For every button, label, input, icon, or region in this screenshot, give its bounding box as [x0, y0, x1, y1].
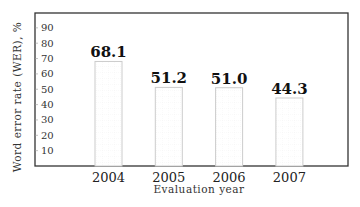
x-tick-label: 2007 [273, 170, 306, 185]
bar-2006 [216, 88, 243, 166]
y-tick-label: 10 [41, 145, 54, 156]
y-tick-label: 40 [41, 99, 54, 110]
bar-2005 [155, 87, 182, 166]
y-tick-label: 30 [41, 114, 54, 125]
bar-2007 [276, 98, 303, 166]
chart: 102030405060708090 68.151.251.044.3 2004… [0, 0, 360, 207]
y-tick-label: 80 [41, 38, 54, 49]
y-tick-label: 90 [41, 22, 54, 33]
data-label-2004: 68.1 [90, 43, 127, 61]
x-tick-label: 2004 [92, 170, 125, 185]
y-axis-ticks: 102030405060708090 [35, 22, 54, 156]
data-label-2007: 44.3 [271, 80, 308, 98]
y-tick-label: 70 [41, 53, 54, 64]
x-axis-title: Evaluation year [153, 183, 245, 195]
y-tick-label: 50 [41, 84, 54, 95]
data-label-2006: 51.0 [211, 70, 248, 88]
y-tick-label: 60 [41, 68, 54, 79]
y-tick-label: 20 [41, 130, 54, 141]
bars: 68.151.251.044.3 [90, 43, 307, 166]
bar-2004 [95, 61, 122, 166]
data-label-2005: 51.2 [151, 69, 188, 87]
y-axis-title: Word error rate (WER), % [11, 22, 23, 173]
